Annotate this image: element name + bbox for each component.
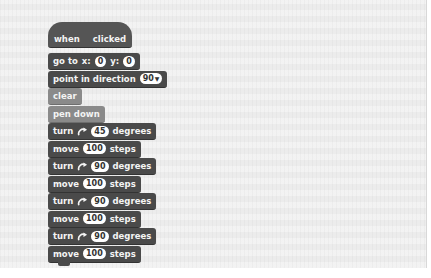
go-to-label: go to [53,56,78,66]
turn-block[interactable]: turn 45 degrees [48,123,156,140]
degrees-input[interactable]: 90 [91,231,108,242]
clear-block[interactable]: clear [48,88,82,105]
y-label: y: [110,56,119,66]
degrees-input[interactable]: 90 [91,161,108,172]
go-to-xy-block[interactable]: go to x: 0 y: 0 [48,53,140,70]
steps-label: steps [110,179,136,189]
degrees-input[interactable]: 45 [91,126,108,137]
when-flag-clicked-block[interactable]: when clicked [48,22,132,48]
turn-label: turn [53,126,73,136]
pen-down-block[interactable]: pen down [48,106,105,123]
when-label: when [54,34,80,44]
degrees-label: degrees [113,161,152,171]
clear-label: clear [53,91,77,101]
turn-clockwise-icon [77,126,88,137]
clicked-label: clicked [93,34,126,44]
turn-clockwise-icon [77,196,88,207]
move-block[interactable]: move 100 steps [48,176,141,193]
turn-label: turn [53,161,73,171]
turn-block[interactable]: turn 90 degrees [48,158,156,175]
turn-block[interactable]: turn 90 degrees [48,193,156,210]
steps-label: steps [110,214,136,224]
turn-label: turn [53,231,73,241]
x-input[interactable]: 0 [95,56,107,67]
pen-down-label: pen down [53,109,100,119]
move-block[interactable]: move 100 steps [48,141,141,158]
point-in-direction-label: point in direction [53,74,136,84]
move-label: move [53,214,79,224]
turn-clockwise-icon [77,161,88,172]
degrees-label: degrees [113,196,152,206]
move-block[interactable]: move 100 steps [48,246,141,263]
x-label: x: [82,56,91,66]
steps-input[interactable]: 100 [83,143,106,154]
turn-clockwise-icon [77,231,88,242]
turn-label: turn [53,196,73,206]
direction-dropdown[interactable]: 90 ▼ [140,73,163,84]
degrees-label: degrees [113,231,152,241]
steps-label: steps [110,249,136,259]
move-block[interactable]: move 100 steps [48,211,141,228]
direction-value: 90 [143,74,154,83]
steps-input[interactable]: 100 [83,178,106,189]
move-label: move [53,249,79,259]
block-notch [58,262,70,266]
steps-label: steps [110,144,136,154]
steps-input[interactable]: 100 [83,213,106,224]
y-input[interactable]: 0 [123,56,135,67]
script-canvas[interactable]: when clicked go to x: 0 y: 0 point in di… [0,0,427,268]
degrees-input[interactable]: 90 [91,196,108,207]
chevron-down-icon: ▼ [155,75,160,82]
point-in-direction-block[interactable]: point in direction 90 ▼ [48,71,167,88]
degrees-label: degrees [113,126,152,136]
script-stack[interactable]: when clicked go to x: 0 y: 0 point in di… [48,22,167,259]
move-label: move [53,144,79,154]
move-label: move [53,179,79,189]
turn-block[interactable]: turn 90 degrees [48,228,156,245]
steps-input[interactable]: 100 [83,248,106,259]
